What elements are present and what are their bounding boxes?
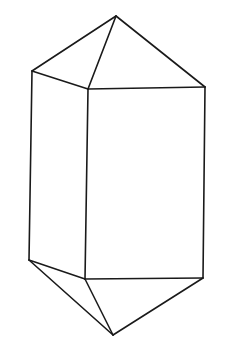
edge-bottom_front-bottom_apex [85, 279, 113, 335]
edge-top_front-top_right [88, 87, 205, 89]
edge-bottom_right-bottom_apex [113, 278, 203, 335]
edge-top_left-top_front [32, 71, 88, 89]
edge-top_front-bottom_front [85, 89, 88, 279]
crystal-drawing [0, 0, 227, 360]
crystal-diagram [0, 0, 227, 360]
edge-top_apex-top_right [116, 16, 205, 87]
edge-bottom_left-bottom_apex [29, 260, 113, 335]
edge-top_left-bottom_left [29, 71, 32, 260]
edge-top_apex-top_front [88, 16, 116, 89]
edge-top_apex-top_left [32, 16, 116, 71]
edge-bottom_left-bottom_front [29, 260, 85, 279]
edge-bottom_front-bottom_right [85, 278, 203, 279]
edge-top_right-bottom_right [203, 87, 205, 278]
